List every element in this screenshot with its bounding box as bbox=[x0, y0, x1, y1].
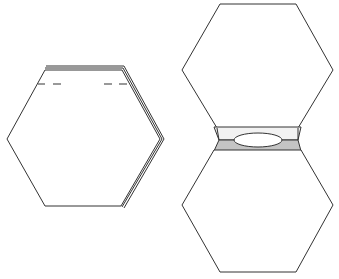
hexagon-bottom bbox=[182, 150, 333, 272]
folded-hexagon bbox=[7, 66, 164, 208]
diagram-canvas bbox=[0, 0, 339, 279]
seam-opening bbox=[234, 133, 282, 147]
diagram-svg bbox=[0, 0, 339, 279]
hexagon-top bbox=[182, 4, 333, 128]
joined-hexagons bbox=[182, 4, 333, 272]
